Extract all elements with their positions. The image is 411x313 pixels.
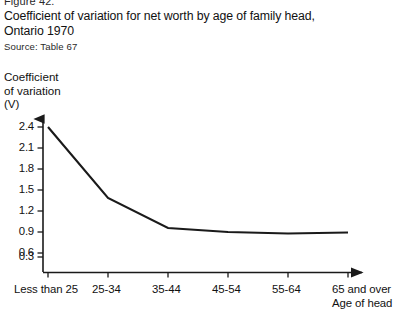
x-axis-caption: Age of head (332, 297, 392, 309)
chart-svg (0, 0, 411, 313)
y-axis-ticks (38, 127, 44, 257)
x-tick-label-35-44: 35-44 (152, 283, 181, 295)
y-tick-label-1.8: 1.8 (4, 162, 34, 174)
data-line-series (48, 127, 348, 234)
y-tick-label-2.4: 2.4 (4, 120, 34, 132)
y-tick-label-0.9: 0.9 (4, 225, 34, 237)
figure-page: Figure 42. Coefficient of variation for … (0, 0, 411, 313)
x-tick-label-45-54: 45-54 (212, 283, 241, 295)
y-tick-label-1.5: 1.5 (4, 183, 34, 195)
x-tick-label-less-than-25: Less than 25 (14, 283, 78, 295)
x-tick-label-55-64: 55-64 (272, 283, 301, 295)
y-tick-label-0.3: 0.3 (4, 250, 34, 262)
chart-plot-area: 2.4 2.1 1.8 1.5 1.2 0.9 0.6 0.3 Less tha… (0, 0, 411, 313)
x-tick-label-65-and-over: 65 and over (332, 283, 391, 295)
y-tick-label-1.2: 1.2 (4, 204, 34, 216)
x-tick-label-25-34: 25-34 (92, 283, 121, 295)
y-tick-label-2.1: 2.1 (4, 141, 34, 153)
